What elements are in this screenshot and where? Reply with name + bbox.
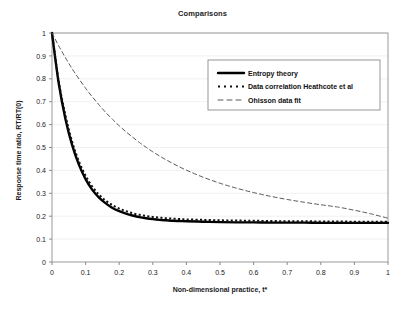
x-tick-label: 0.1 <box>81 269 91 276</box>
y-tick-label: 0.3 <box>36 190 46 197</box>
x-tick-label: 0.9 <box>350 269 360 276</box>
plot-area: 00.10.20.30.40.50.60.70.80.91 00.10.20.3… <box>0 0 405 310</box>
y-tick-label: 0.8 <box>36 75 46 82</box>
x-axis-ticks: 00.10.20.30.40.50.60.70.80.91 <box>50 262 390 276</box>
y-tick-label: 0.1 <box>36 236 46 243</box>
y-tick-label: 0.2 <box>36 213 46 220</box>
y-tick-label: 0.6 <box>36 121 46 128</box>
x-tick-label: 0.3 <box>148 269 158 276</box>
x-tick-label: 0.8 <box>316 269 326 276</box>
x-tick-label: 0 <box>50 269 54 276</box>
chart-legend: Entropy theoryData correlation Heathcote… <box>208 60 380 110</box>
y-tick-label: 1 <box>42 30 46 37</box>
x-tick-label: 0.4 <box>182 269 192 276</box>
x-tick-label: 0.5 <box>215 269 225 276</box>
y-tick-label: 0.5 <box>36 144 46 151</box>
y-tick-label: 0.4 <box>36 167 46 174</box>
y-tick-label: 0 <box>42 259 46 266</box>
legend-label-1: Entropy theory <box>248 70 298 78</box>
y-axis-ticks: 00.10.20.30.40.50.60.70.80.91 <box>36 30 52 266</box>
x-tick-label: 0.6 <box>249 269 259 276</box>
x-tick-label: 0.2 <box>114 269 124 276</box>
chart-figure: Comparisons Response time ratio, RT/RT(0… <box>0 0 405 310</box>
legend-label-2: Data correlation Heathcote et al <box>248 83 353 90</box>
y-tick-label: 0.9 <box>36 53 46 60</box>
x-tick-label: 1 <box>386 269 390 276</box>
x-tick-label: 0.7 <box>282 269 292 276</box>
y-tick-label: 0.7 <box>36 98 46 105</box>
legend-label-3: Ohisson data fit <box>248 97 302 104</box>
